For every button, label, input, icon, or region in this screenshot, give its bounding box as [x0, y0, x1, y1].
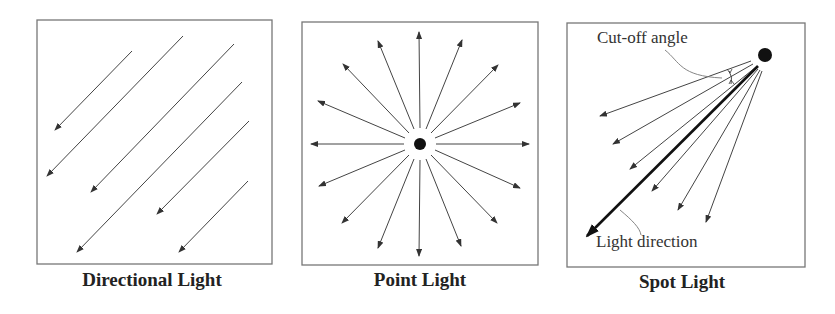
light-direction-label: Light direction [596, 232, 698, 252]
lighting-types-diagram [0, 0, 835, 314]
caption-point-light: Point Light [345, 269, 495, 291]
light-ray-arrow [179, 181, 248, 252]
light-ray-arrow [435, 150, 520, 188]
light-ray-arrow [91, 44, 234, 192]
light-ray-arrow [157, 121, 249, 214]
light-ray-arrow [47, 36, 183, 176]
light-ray-arrow [318, 101, 405, 138]
light-ray-arrow [342, 155, 409, 223]
light-ray-arrow [706, 71, 762, 222]
light-ray-arrow [678, 70, 760, 210]
light-ray-arrow [343, 64, 409, 133]
light-source-icon [414, 138, 426, 150]
light-ray-arrow [652, 69, 758, 191]
light-ray-arrow [419, 32, 420, 128]
light-ray-arrow [426, 159, 461, 246]
light-ray-arrow [319, 150, 405, 186]
point-light-panel [302, 22, 538, 265]
cutoff-angle-label: Cut-off angle [597, 28, 688, 48]
caption-spot-light: Spot Light [612, 271, 752, 293]
directional-light-panel [37, 20, 272, 264]
light-ray-arrow [77, 82, 242, 252]
light-ray-arrow [378, 159, 414, 248]
light-ray-arrow [431, 65, 498, 133]
spot-light-panel [567, 23, 805, 267]
light-ray-arrow [426, 40, 462, 129]
light-source-icon [758, 48, 772, 62]
caption-directional-light: Directional Light [77, 269, 227, 291]
light-ray-arrow [55, 51, 132, 130]
light-ray-arrow [378, 41, 414, 129]
light-ray-arrow [435, 103, 520, 138]
light-ray-arrow [419, 160, 420, 256]
panel-frame [37, 20, 272, 264]
light-ray-arrow [431, 155, 497, 223]
cutoff-angle-leader [665, 50, 722, 78]
